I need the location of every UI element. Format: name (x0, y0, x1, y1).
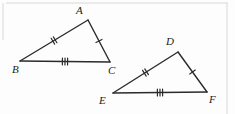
triangle-def (113, 52, 207, 93)
triangle-abc (20, 20, 110, 62)
triangles-drawing (0, 0, 235, 114)
side-df-ticks (190, 70, 196, 74)
vertex-label-e: E (99, 95, 106, 106)
vertex-label-d: D (166, 36, 174, 47)
figure-frame (3, 3, 228, 114)
vertex-label-a: A (76, 5, 83, 16)
vertex-label-b: B (12, 64, 19, 75)
triangles-group (20, 20, 207, 93)
vertex-label-c: C (108, 65, 115, 76)
side-df-tick-1 (190, 70, 196, 74)
side-ab (20, 20, 88, 61)
side-ed (113, 52, 178, 93)
geometry-figure: ABCDEF (0, 0, 235, 114)
vertex-label-f: F (209, 94, 216, 105)
